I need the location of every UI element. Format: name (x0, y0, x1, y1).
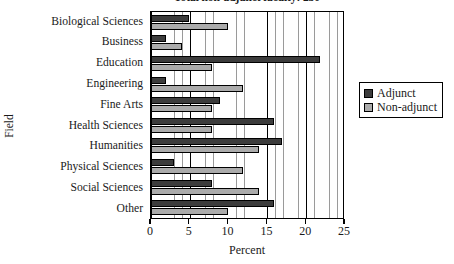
bar-adjunct (151, 180, 212, 187)
y-tick-label: Business (10, 32, 146, 53)
bar-non-adjunct (151, 23, 228, 30)
legend-item-non-adjunct: Non-adjunct (364, 101, 437, 113)
bar-group (151, 197, 343, 218)
x-tick-label: 20 (299, 225, 311, 237)
y-tick-label: Other (10, 198, 146, 219)
y-tick-label: Humanities (10, 136, 146, 157)
bar-adjunct (151, 56, 320, 63)
bar-group (151, 53, 343, 74)
bar-group (151, 74, 343, 95)
legend-swatch-icon (364, 89, 373, 98)
bar-adjunct (151, 118, 274, 125)
y-tick-label: Engineering (10, 73, 146, 94)
y-tick-label: Health Sciences (10, 115, 146, 136)
y-tick-label: Fine Arts (10, 94, 146, 115)
bar-group (151, 156, 343, 177)
y-tick-label: Education (10, 53, 146, 74)
y-tick-label: Biological Sciences (10, 11, 146, 32)
y-tick-label: Physical Sciences (10, 157, 146, 178)
bar-adjunct (151, 159, 174, 166)
bar-non-adjunct (151, 105, 212, 112)
legend-label: Adjunct (377, 87, 416, 99)
bar-adjunct (151, 97, 220, 104)
bar-non-adjunct (151, 43, 182, 50)
x-axis-tick-labels: 0510152025 (150, 225, 344, 241)
bar-adjunct (151, 35, 166, 42)
x-tick-label: 0 (147, 225, 153, 237)
bar-group (151, 136, 343, 157)
bar-non-adjunct (151, 208, 228, 215)
bar-chart-figure: Total non-adjunct faculty: 230 Field Bio… (0, 0, 454, 264)
y-tick-label: Social Sciences (10, 177, 146, 198)
x-tick-label: 15 (260, 225, 272, 237)
bar-group (151, 94, 343, 115)
bar-adjunct (151, 138, 282, 145)
bar-non-adjunct (151, 126, 212, 133)
y-axis-tick-labels: Biological Sciences Business Education E… (10, 11, 146, 219)
bar-adjunct (151, 77, 166, 84)
bar-non-adjunct (151, 64, 212, 71)
bar-non-adjunct (151, 188, 259, 195)
bar-non-adjunct (151, 85, 243, 92)
legend-label: Non-adjunct (377, 101, 437, 113)
x-tick-label: 25 (338, 225, 350, 237)
plot-area (150, 11, 344, 219)
x-tick-label: 10 (222, 225, 234, 237)
bar-group (151, 115, 343, 136)
bar-adjunct (151, 200, 274, 207)
bar-non-adjunct (151, 167, 243, 174)
bar-non-adjunct (151, 146, 259, 153)
bar-group (151, 12, 343, 33)
x-tick-label: 5 (186, 225, 192, 237)
x-axis-title: Percent (150, 243, 344, 258)
bar-adjunct (151, 15, 189, 22)
legend-swatch-icon (364, 103, 373, 112)
legend-item-adjunct: Adjunct (364, 87, 437, 99)
bar-groups (151, 12, 343, 218)
chart-legend: Adjunct Non-adjunct (359, 82, 443, 118)
chart-title: Total non-adjunct faculty: 230 (150, 0, 344, 3)
bar-group (151, 177, 343, 198)
bar-group (151, 33, 343, 54)
